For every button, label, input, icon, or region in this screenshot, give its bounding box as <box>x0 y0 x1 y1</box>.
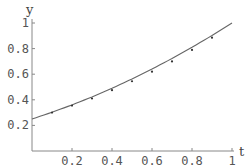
curve-line <box>32 23 232 119</box>
y-axis-label: y <box>25 2 34 17</box>
x-tick-label: 0.2 <box>61 154 83 168</box>
x-tick-label: 1 <box>228 154 235 168</box>
data-point <box>111 89 113 91</box>
chart-container: 0.20.40.60.810.20.40.60.81 t y <box>0 0 252 168</box>
x-tick-label: 0.6 <box>141 154 163 168</box>
plot-area: 0.20.40.60.810.20.40.60.81 t y <box>0 0 252 168</box>
x-axis-label: t <box>239 144 245 159</box>
series-layer <box>32 23 232 119</box>
x-tick-label: 0.4 <box>101 154 123 168</box>
y-tick-label: 1 <box>22 16 29 30</box>
data-point <box>131 80 133 82</box>
x-tick-label: 0.8 <box>181 154 203 168</box>
data-point <box>171 60 173 62</box>
data-point <box>211 37 213 39</box>
data-point <box>51 112 53 114</box>
data-point <box>91 97 93 99</box>
data-point <box>151 71 153 73</box>
y-tick-label: 0.2 <box>7 118 29 132</box>
y-tick-label: 0.6 <box>7 67 29 81</box>
data-point <box>191 49 193 51</box>
axes <box>32 19 234 151</box>
y-tick-label: 0.8 <box>7 42 29 56</box>
ticks: 0.20.40.60.810.20.40.60.81 <box>7 16 235 168</box>
data-point <box>71 104 73 106</box>
y-tick-label: 0.4 <box>7 93 29 107</box>
